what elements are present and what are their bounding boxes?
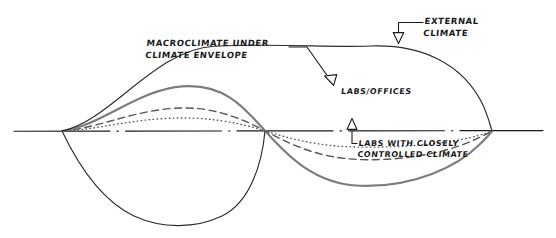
arrowhead-external xyxy=(393,33,404,44)
label-controlled-climate: LABS WITH CLOSELY CONTROLLED CLIMATE xyxy=(357,138,470,160)
baseline-axis xyxy=(14,131,543,132)
macroclimate-curve xyxy=(62,86,492,186)
diagram-canvas: MACROCLIMATE UNDER CLIMATE ENVELOPE EXTE… xyxy=(0,0,556,238)
arrowhead-macroclimate xyxy=(325,75,337,86)
label-macroclimate: MACROCLIMATE UNDER CLIMATE ENVELOPE xyxy=(145,38,270,61)
leader-external xyxy=(393,23,423,44)
leader-macroclimate xyxy=(289,47,337,85)
arrowhead-controlled xyxy=(347,119,357,130)
external-climate-curve xyxy=(62,45,492,225)
label-external-climate: EXTERNAL CLIMATE xyxy=(423,16,479,39)
label-labs-offices: LABS/OFFICES xyxy=(340,86,412,98)
